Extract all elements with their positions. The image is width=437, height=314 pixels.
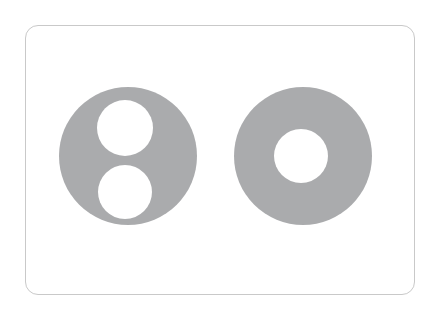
shapes-canvas	[0, 0, 437, 314]
figure-area	[0, 0, 437, 314]
annulus-disc-shape	[0, 0, 437, 314]
stage	[0, 0, 437, 314]
